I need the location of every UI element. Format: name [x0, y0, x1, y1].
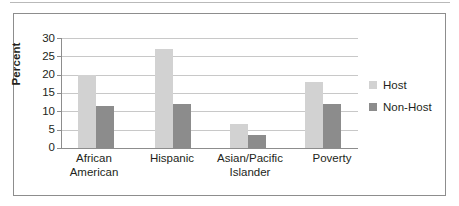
- bar-nonhost-hispanic[interactable]: [173, 104, 191, 148]
- legend-item-non-host[interactable]: Non-Host: [369, 96, 439, 118]
- bar-host-african-american[interactable]: [78, 75, 96, 148]
- x-axis-label-poverty: Poverty: [292, 152, 372, 166]
- gridline-20: [62, 75, 358, 76]
- legend-swatch-host-icon: [369, 81, 377, 89]
- page-top-rule: [10, 2, 450, 3]
- y-axis-title: Percent: [10, 24, 22, 104]
- bar-host-hispanic[interactable]: [155, 49, 173, 148]
- x-axis-label-hispanic: Hispanic: [132, 152, 212, 166]
- bar-nonhost-african-american[interactable]: [96, 106, 114, 148]
- y-tick-label: 10: [9, 106, 55, 118]
- y-tick-label: 5: [9, 124, 55, 136]
- legend-label-non-host: Non-Host: [383, 101, 432, 113]
- legend: Host Non-Host: [369, 74, 439, 118]
- x-axis-label-line1: Asian/Pacific: [204, 152, 296, 166]
- legend-item-host[interactable]: Host: [369, 74, 439, 96]
- x-axis-label-line2: American: [54, 166, 134, 180]
- x-axis-label-line1: Hispanic: [132, 152, 212, 166]
- gridline-25: [62, 56, 358, 57]
- bar-nonhost-asian-pacific-islander[interactable]: [248, 135, 266, 148]
- gridline-0: [62, 148, 358, 149]
- bar-host-poverty[interactable]: [305, 82, 323, 148]
- legend-label-host: Host: [383, 79, 407, 91]
- bar-nonhost-poverty[interactable]: [323, 104, 341, 148]
- bar-host-asian-pacific-islander[interactable]: [230, 124, 248, 148]
- legend-swatch-non-host-icon: [369, 103, 377, 111]
- gridline-30: [62, 38, 358, 39]
- y-tick-label: 0: [9, 142, 55, 154]
- x-axis-label-asian-pacific-islander: Asian/Pacific Islander: [204, 152, 296, 179]
- x-axis-label-line2: Islander: [204, 166, 296, 180]
- plot-area: [62, 38, 358, 148]
- y-axis-labels: 30 25 20 15 10 5 0: [0, 0, 55, 206]
- x-axis-label-line1: Poverty: [292, 152, 372, 166]
- x-axis-label-african-american: African American: [54, 152, 134, 179]
- chart-page: 30 25 20 15 10 5 0 Percent: [0, 0, 459, 206]
- x-axis-label-line1: African: [54, 152, 134, 166]
